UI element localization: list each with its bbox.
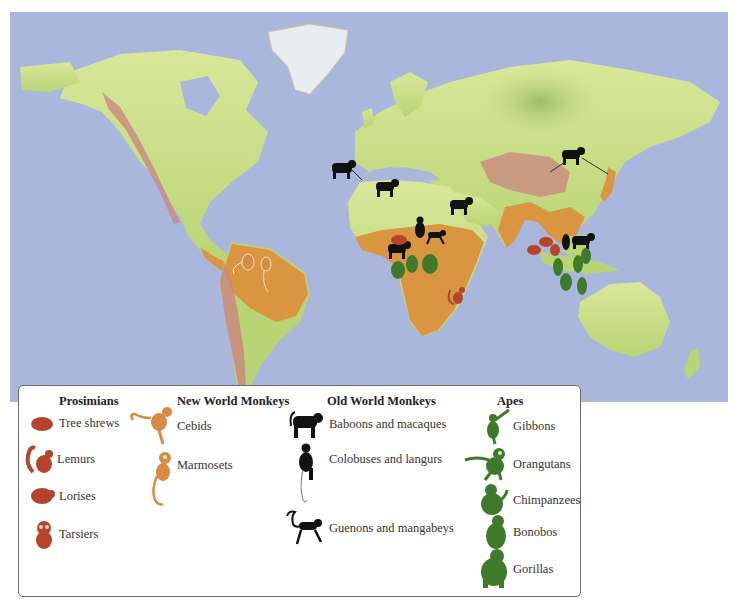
legend-item-gorillas: Gorillas	[477, 548, 553, 590]
legend-title-old-world-monkeys: Old World Monkeys	[327, 394, 436, 409]
marker-gibbon-sea	[553, 258, 563, 276]
legend-label: Lemurs	[57, 452, 95, 467]
legend-label: Chimpanzees	[513, 493, 580, 508]
legend-item-baboons-macaques: Baboons and macaques	[287, 408, 446, 440]
marmoset-icon	[147, 450, 175, 508]
gorilla-icon	[477, 548, 511, 590]
legend-label: Cebids	[177, 419, 212, 434]
marker-orangutan-borneo	[560, 273, 572, 291]
legend-label: Gibbons	[513, 419, 555, 434]
legend-title-prosimians: Prosimians	[59, 394, 119, 409]
tarsier-icon	[31, 518, 57, 550]
legend-label: Lorises	[59, 489, 96, 504]
tree-shrew-icon	[27, 412, 55, 434]
legend-item-tree-shrews: Tree shrews	[27, 412, 119, 434]
siberian-lowland	[480, 67, 600, 137]
legend-label: Bonobos	[513, 525, 557, 540]
legend-label: Orangutans	[513, 457, 571, 472]
cebid-icon	[129, 404, 175, 448]
legend-item-chimpanzees: Chimpanzees	[477, 482, 580, 518]
legend-label: Guenons and mangabeys	[329, 521, 454, 536]
legend-item-guenons-mangabeys: Guenons and mangabeys	[283, 508, 454, 548]
legend-item-marmosets: Marmosets	[147, 450, 233, 508]
marker-tarsier-sea	[550, 244, 560, 256]
marker-tree-shrew-sea	[527, 245, 541, 255]
legend-label: Tarsiers	[59, 527, 98, 542]
world-map-canvas	[10, 12, 728, 402]
legend-label: Tree shrews	[59, 416, 119, 431]
marker-gibbon-borneo	[577, 277, 587, 295]
legend-item-lemurs: Lemurs	[25, 442, 95, 476]
colobus-icon	[293, 442, 319, 506]
legend-item-orangutans: Orangutans	[463, 446, 571, 482]
gibbon-icon	[481, 406, 511, 446]
marker-chimpanzee-africa	[391, 261, 405, 279]
chimpanzee-icon	[477, 482, 511, 518]
legend-item-colobuses-langurs: Colobuses and langurs	[293, 442, 442, 506]
legend-label: Baboons and macaques	[329, 417, 446, 432]
orangutan-icon	[463, 446, 511, 482]
marker-gorilla-africa	[422, 254, 438, 274]
legend-label: Gorillas	[513, 562, 553, 577]
legend-item-bonobos: Bonobos	[481, 514, 557, 550]
legend-item-tarsiers: Tarsiers	[31, 518, 98, 550]
guenon-icon	[283, 508, 327, 548]
marker-loris-central-africa	[391, 235, 407, 245]
marker-orangutan-sea	[581, 248, 591, 264]
legend-label: Marmosets	[177, 458, 233, 473]
marker-loris-sea	[539, 237, 553, 247]
lemur-icon	[25, 442, 55, 476]
marker-langur-sea	[562, 234, 570, 250]
baboon-icon	[287, 408, 325, 440]
legend-item-cebids: Cebids	[129, 404, 212, 448]
world-map	[10, 12, 728, 402]
marker-bonobo-africa	[406, 255, 418, 273]
bonobo-icon	[481, 514, 511, 550]
legend-item-gibbons: Gibbons	[481, 406, 555, 446]
legend-item-lorises: Lorises	[29, 484, 96, 508]
loris-icon	[29, 484, 57, 508]
legend: Prosimians Tree shrews Lemurs Lorises Ta…	[18, 385, 581, 597]
legend-label: Colobuses and langurs	[329, 452, 442, 467]
